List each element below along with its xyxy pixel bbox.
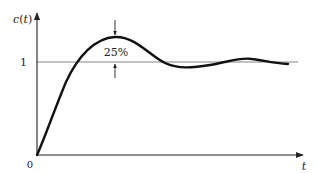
origin-label: 0 (27, 159, 33, 170)
y-tick-one: 1 (20, 56, 27, 69)
y-axis-label: c(t) (13, 13, 32, 26)
response-curve (37, 37, 288, 155)
overshoot-label: 25% (104, 46, 128, 59)
step-response-diagram: c(t) 1 25% 0 t (0, 0, 318, 173)
x-axis-label: t (302, 160, 307, 173)
